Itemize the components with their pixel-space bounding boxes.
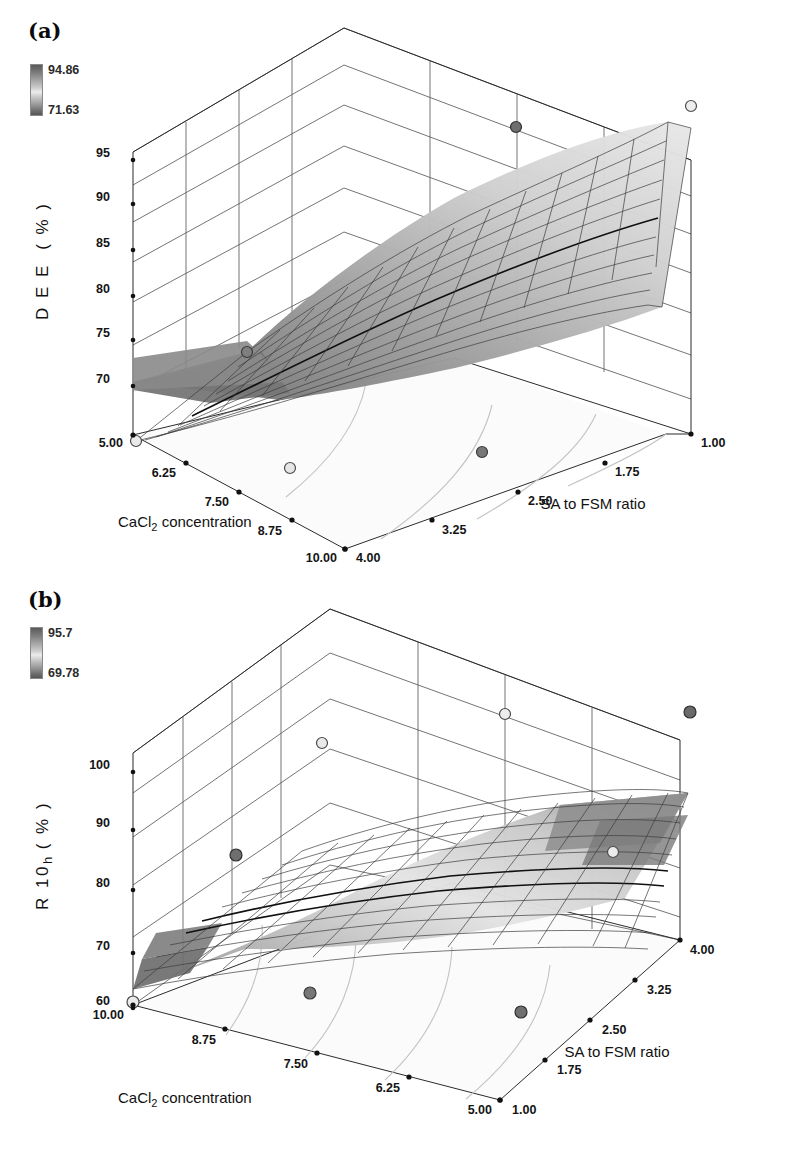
y-axis-title: SA to FSM ratio — [540, 495, 645, 512]
z-tick-label: 90 — [96, 816, 110, 830]
x-axis-title-pre: CaCl — [118, 1089, 151, 1106]
z-axis-title-main: R 10 — [33, 864, 52, 910]
panel-a: (a) 94.86 71.63 — [0, 0, 787, 570]
z-axis-title-unit: ( % ) — [33, 201, 52, 249]
z-tick-label: 95 — [96, 146, 110, 160]
x-tick-label: 6.25 — [152, 466, 176, 480]
z-tick-label: 90 — [96, 190, 110, 204]
y-tick-label: 3.25 — [442, 523, 466, 537]
y-tick-label: 4.00 — [356, 551, 380, 565]
x-axis-title: CaCl2 concentration — [118, 1089, 252, 1109]
z-tick-label: 100 — [89, 758, 110, 772]
z-tick-label: 85 — [96, 236, 110, 250]
x-tick-label: 7.50 — [205, 495, 229, 509]
z-axis-title-main: D E E — [33, 263, 52, 320]
panel-a-plot: 95 90 85 80 75 70 5.00 6.25 7.50 8.75 10… — [0, 0, 787, 570]
design-point — [500, 709, 511, 720]
y-tick-label: 3.25 — [647, 983, 671, 997]
design-point — [230, 849, 242, 861]
y-tick-label: 1.00 — [512, 1103, 536, 1117]
x-axis-title-post: concentration — [157, 1089, 251, 1106]
design-point — [317, 738, 328, 749]
design-point — [304, 987, 316, 999]
z-axis-ticks: 95 90 85 80 75 70 — [96, 146, 135, 388]
y-tick-label: 1.75 — [615, 465, 639, 479]
z-axis-title-subh: h — [40, 854, 55, 864]
x-axis-title-post: concentration — [157, 513, 251, 530]
z-tick-label: 70 — [96, 939, 110, 953]
z-tick-label: 75 — [96, 326, 110, 340]
design-point — [515, 1006, 527, 1018]
y-tick-label: 2.50 — [602, 1023, 626, 1037]
y-axis-title: SA to FSM ratio — [564, 1043, 669, 1060]
z-axis-title: D E E ( % ) — [33, 201, 52, 320]
z-axis-title-unit: ( % ) — [33, 801, 52, 849]
y-tick-label: 1.00 — [701, 436, 725, 450]
z-tick-label: 80 — [96, 282, 110, 296]
z-tick-label: 70 — [96, 372, 110, 386]
z-tick-label: 80 — [96, 876, 110, 890]
design-point — [684, 706, 696, 718]
z-axis-ticks: 100 90 80 70 60 — [89, 758, 135, 1010]
x-tick-label: 6.25 — [376, 1081, 400, 1095]
design-point — [608, 847, 619, 858]
x-tick-label: 10.00 — [306, 551, 337, 565]
panel-b: (b) 95.7 69.78 — [0, 565, 787, 1153]
y-tick-label: 1.75 — [557, 1063, 581, 1077]
x-tick-label: 8.75 — [258, 524, 282, 538]
x-tick-label: 5.00 — [99, 436, 123, 450]
x-axis-title-pre: CaCl — [118, 513, 151, 530]
x-tick-label: 5.00 — [468, 1103, 492, 1117]
panel-b-plot: 100 90 80 70 60 10.00 8.75 7.50 6.25 5.0… — [0, 565, 787, 1153]
design-point — [511, 122, 522, 133]
z-axis-title: R 10h( % ) — [33, 801, 55, 910]
design-point — [242, 347, 253, 358]
design-point — [477, 447, 488, 458]
x-tick-label: 8.75 — [192, 1033, 216, 1047]
x-axis-title: CaCl2 concentration — [118, 513, 252, 533]
z-tick-label: 60 — [96, 994, 110, 1008]
y-tick-label: 4.00 — [690, 943, 714, 957]
x-tick-label: 10.00 — [93, 1008, 124, 1022]
x-tick-label: 7.50 — [284, 1057, 308, 1071]
design-point — [686, 101, 697, 112]
design-point — [285, 463, 296, 474]
